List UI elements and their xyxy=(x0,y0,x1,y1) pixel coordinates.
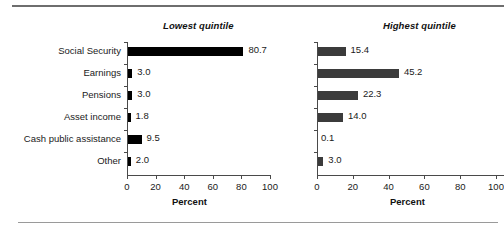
x-axis-tick-label: 40 xyxy=(383,181,394,192)
bar xyxy=(128,157,131,166)
bar-value-label: 80.7 xyxy=(248,44,267,55)
panel-lowest-quintile: Lowest quintile Social Security80.7Earni… xyxy=(0,0,276,232)
bar-row: Social Security80.7 xyxy=(127,42,270,64)
category-label: Asset income xyxy=(64,111,121,122)
x-axis-caption-lowest: Percent xyxy=(172,196,207,207)
bar-row: 15.4 xyxy=(317,42,496,64)
bar-value-label: 1.8 xyxy=(136,110,149,121)
category-label: Pensions xyxy=(82,89,121,100)
y-axis-tick xyxy=(124,130,127,131)
y-axis-tick xyxy=(124,64,127,65)
bar-value-label: 15.4 xyxy=(351,44,370,55)
x-axis-tick-label: 80 xyxy=(455,181,466,192)
x-axis-tick-label: 80 xyxy=(236,181,247,192)
y-axis-tick xyxy=(314,64,317,65)
bar-row: Asset income1.8 xyxy=(127,108,270,130)
x-axis-line xyxy=(127,175,270,176)
bar xyxy=(318,157,323,166)
panel-highest-quintile: Highest quintile 15.445.222.314.00.13.00… xyxy=(276,0,504,232)
x-axis-tick-label: 60 xyxy=(419,181,430,192)
x-axis-line xyxy=(317,175,504,176)
y-axis-tick xyxy=(314,108,317,109)
x-axis-tick xyxy=(213,175,214,179)
category-label: Cash public assistance xyxy=(24,133,121,144)
x-axis-tick xyxy=(127,175,128,179)
bar-value-label: 3.0 xyxy=(137,88,150,99)
category-label: Earnings xyxy=(84,67,122,78)
bar-value-label: 2.0 xyxy=(136,154,149,165)
bar-value-label: 3.0 xyxy=(328,154,341,165)
bar-row: 22.3 xyxy=(317,86,496,108)
x-axis-tick xyxy=(424,175,425,179)
y-axis-tick xyxy=(314,152,317,153)
bar-value-label: 3.0 xyxy=(137,66,150,77)
bar-value-label: 9.5 xyxy=(147,132,160,143)
panel-title-lowest-quintile: Lowest quintile xyxy=(163,20,234,31)
bar-row: 0.1 xyxy=(317,130,496,152)
panel-title-highest-quintile: Highest quintile xyxy=(383,20,456,31)
plot-area-lowest-quintile: Social Security80.7Earnings3.0Pensions3.… xyxy=(127,42,270,175)
bar xyxy=(318,69,399,78)
x-axis-tick-label: 100 xyxy=(488,181,504,192)
x-axis-tick xyxy=(317,175,318,179)
bar-row: Pensions3.0 xyxy=(127,86,270,108)
y-axis-tick xyxy=(314,130,317,131)
x-axis-caption-highest: Percent xyxy=(390,196,425,207)
bar xyxy=(318,91,358,100)
x-axis-tick xyxy=(241,175,242,179)
plot-area-highest-quintile: 15.445.222.314.00.13.0020406080100 xyxy=(317,42,496,175)
x-axis-tick-label: 0 xyxy=(124,181,129,192)
bar-row: Cash public assistance9.5 xyxy=(127,130,270,152)
bar-row: 45.2 xyxy=(317,64,496,86)
bar xyxy=(318,47,346,56)
bar-value-label: 14.0 xyxy=(348,110,367,121)
x-axis-tick xyxy=(389,175,390,179)
bar xyxy=(128,91,132,100)
y-axis-tick xyxy=(314,86,317,87)
y-axis-tick xyxy=(124,108,127,109)
chart-figure: Lowest quintile Social Security80.7Earni… xyxy=(0,0,504,232)
x-axis-tick xyxy=(270,175,271,179)
x-axis-tick xyxy=(184,175,185,179)
x-axis-tick-label: 20 xyxy=(348,181,359,192)
x-axis-tick-label: 60 xyxy=(208,181,219,192)
bar-row: Earnings3.0 xyxy=(127,64,270,86)
bar-value-label: 45.2 xyxy=(404,66,423,77)
y-axis-tick xyxy=(314,42,317,43)
x-axis-tick-label: 20 xyxy=(150,181,161,192)
x-axis-tick xyxy=(156,175,157,179)
bar-row: Other2.0 xyxy=(127,152,270,174)
bar-value-label: 22.3 xyxy=(363,88,382,99)
y-axis-tick xyxy=(124,86,127,87)
x-axis-tick xyxy=(353,175,354,179)
category-label: Other xyxy=(97,155,121,166)
x-axis-tick xyxy=(496,175,497,179)
bar xyxy=(318,113,343,122)
category-label: Social Security xyxy=(58,45,121,56)
bar-row: 3.0 xyxy=(317,152,496,174)
bar xyxy=(128,47,243,56)
bar-row: 14.0 xyxy=(317,108,496,130)
y-axis-tick xyxy=(124,42,127,43)
bar xyxy=(128,135,142,144)
y-axis-tick xyxy=(124,152,127,153)
bar xyxy=(128,69,132,78)
bar xyxy=(128,113,131,122)
x-axis-tick-label: 0 xyxy=(314,181,319,192)
bar-value-label: 0.1 xyxy=(321,132,334,143)
x-axis-tick-label: 40 xyxy=(179,181,190,192)
x-axis-tick xyxy=(460,175,461,179)
